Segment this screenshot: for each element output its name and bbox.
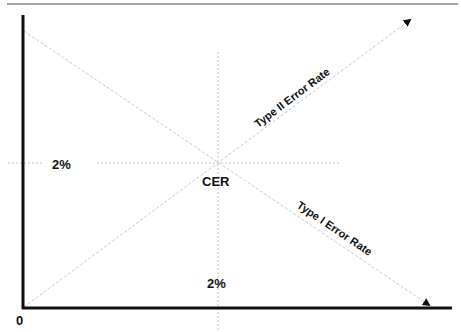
origin-label: 0 xyxy=(16,313,23,328)
cer-diagram: 0 2% 2% CER Type II Error Rate Type I Er… xyxy=(0,0,461,332)
type-ii-error-line xyxy=(24,20,410,307)
x-value-label: 2% xyxy=(207,276,226,291)
y-value-label: 2% xyxy=(52,157,71,172)
type-i-error-line xyxy=(24,31,429,305)
type-i-error-rate-label: Type I Error Rate xyxy=(295,199,375,258)
cer-label: CER xyxy=(202,174,230,189)
type-ii-error-rate-label: Type II Error Rate xyxy=(252,65,332,129)
